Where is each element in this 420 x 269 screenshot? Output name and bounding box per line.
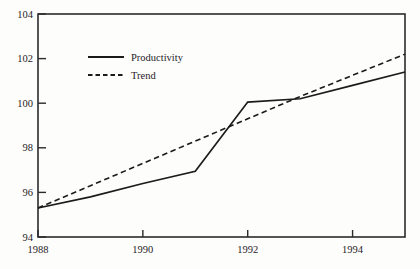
y-tick-label: 94 (23, 232, 34, 243)
x-tick-label: 1994 (342, 244, 364, 255)
y-tick-label: 96 (23, 187, 34, 198)
plot-frame (38, 14, 405, 237)
line-chart: 949698100102104 1988199019921994 Product… (0, 0, 420, 269)
x-tick-label: 1990 (132, 244, 153, 255)
x-tick-label: 1992 (237, 244, 258, 255)
chart-screenshot: 949698100102104 1988199019921994 Product… (0, 0, 420, 269)
y-tick-label: 100 (17, 98, 33, 109)
legend-label-productivity: Productivity (131, 52, 184, 63)
y-tick-label: 104 (17, 9, 34, 20)
x-axis-ticks: 1988199019921994 (28, 230, 364, 255)
legend-label-trend: Trend (131, 70, 156, 81)
series-line-trend (38, 54, 405, 208)
y-tick-label: 98 (23, 142, 34, 153)
x-tick-label: 1988 (28, 244, 49, 255)
y-tick-label: 102 (17, 53, 33, 64)
chart-legend: Productivity Trend (88, 52, 184, 81)
series-line-productivity (38, 72, 405, 208)
